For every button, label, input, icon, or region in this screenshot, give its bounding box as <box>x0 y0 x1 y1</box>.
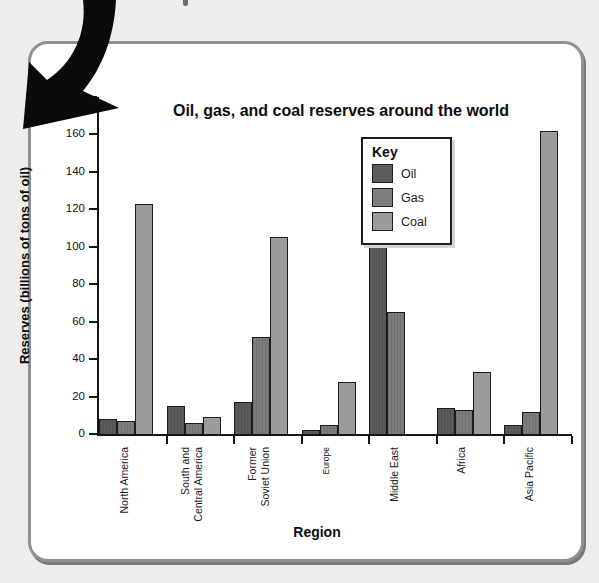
plot-area: 020406080100120140160180 <box>97 97 572 436</box>
x-category-label-former-soviet-union: Former Soviet Union <box>246 447 272 557</box>
bar-gas-former-soviet-union <box>252 337 270 434</box>
bar-oil-asia-pacific <box>504 425 522 434</box>
x-category-label-europe: Europe <box>321 447 332 557</box>
y-tick-label-20: 20 <box>51 390 85 402</box>
x-tick <box>368 436 370 444</box>
y-tick-label-0: 0 <box>51 427 85 439</box>
x-category-label-south-and-central-america: South and Central America <box>179 447 205 557</box>
y-tick-120 <box>89 208 97 210</box>
oil-swatch-icon <box>372 164 393 183</box>
y-tick-0 <box>89 433 97 435</box>
y-axis-title: Reserves (billions of tons of oil) <box>17 126 32 406</box>
annotation-arrow-icon <box>0 0 150 150</box>
x-tick <box>166 436 168 444</box>
x-tick <box>571 436 573 444</box>
bar-coal-asia-pacific <box>540 131 558 434</box>
x-axis-title: Region <box>97 524 537 540</box>
x-tick <box>436 436 438 444</box>
bar-coal-north-america <box>135 204 153 434</box>
y-tick-label-40: 40 <box>51 352 85 364</box>
bar-gas-africa <box>455 410 473 434</box>
y-tick-20 <box>89 396 97 398</box>
legend-box: Key OilGasCoal <box>361 137 452 245</box>
y-tick-label-120: 120 <box>51 202 85 214</box>
y-tick-80 <box>89 283 97 285</box>
bars-row <box>99 97 572 434</box>
y-tick-label-80: 80 <box>51 277 85 289</box>
legend-item-gas: Gas <box>372 188 450 207</box>
bar-gas-europe <box>320 425 338 434</box>
bar-coal-europe <box>338 382 356 434</box>
x-category-label-north-america: North America <box>118 447 131 557</box>
bar-group-europe <box>302 97 370 434</box>
y-tick-40 <box>89 358 97 360</box>
bar-coal-africa <box>473 372 491 434</box>
x-category-label-middle-east: Middle East <box>388 447 401 557</box>
x-tick <box>233 436 235 444</box>
y-tick-100 <box>89 246 97 248</box>
bar-coal-former-soviet-union <box>270 237 288 434</box>
bar-group-former-soviet-union <box>234 97 302 434</box>
cropped-text-artifact <box>183 0 188 6</box>
page-background: Oil, gas, and coal reserves around the w… <box>0 0 599 583</box>
coal-swatch-icon <box>372 212 393 231</box>
y-tick-label-60: 60 <box>51 315 85 327</box>
bar-oil-north-america <box>99 419 117 434</box>
bar-group-asia-pacific <box>504 97 572 434</box>
y-tick-60 <box>89 321 97 323</box>
bar-gas-middle-east <box>387 312 405 434</box>
gas-swatch-icon <box>372 188 393 207</box>
bar-oil-south-and-central-america <box>167 406 185 434</box>
bar-group-south-and-central-america <box>167 97 235 434</box>
bar-oil-africa <box>437 408 455 434</box>
y-tick-label-140: 140 <box>51 165 85 177</box>
legend-items: OilGasCoal <box>372 164 450 231</box>
bar-gas-north-america <box>117 421 135 434</box>
legend-item-coal: Coal <box>372 212 450 231</box>
legend-item-label: Gas <box>401 191 424 205</box>
x-tick <box>503 436 505 444</box>
legend-title: Key <box>372 144 450 160</box>
x-category-label-africa: Africa <box>455 447 468 557</box>
y-tick-140 <box>89 171 97 173</box>
chart-title: Oil, gas, and coal reserves around the w… <box>91 102 591 120</box>
bar-coal-south-and-central-america <box>203 417 221 434</box>
legend-item-oil: Oil <box>372 164 450 183</box>
legend-item-label: Coal <box>401 215 427 229</box>
bar-oil-europe <box>302 430 320 434</box>
bar-gas-south-and-central-america <box>185 423 203 434</box>
x-tick <box>301 436 303 444</box>
legend-item-label: Oil <box>401 167 416 181</box>
x-category-label-asia-pacific: Asia Pacific <box>523 447 536 557</box>
bar-gas-asia-pacific <box>522 412 540 434</box>
y-tick-label-100: 100 <box>51 240 85 252</box>
bar-oil-former-soviet-union <box>234 402 252 434</box>
bar-oil-middle-east <box>369 245 387 434</box>
